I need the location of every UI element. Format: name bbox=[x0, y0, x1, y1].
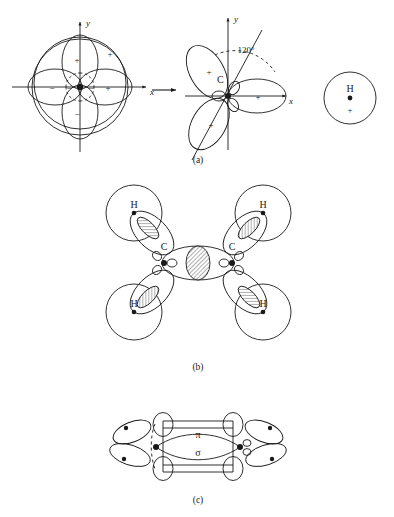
panel-a-hydrogen bbox=[324, 72, 376, 124]
lobe-dot-right-upper bbox=[268, 426, 272, 430]
s-orbital-sign: + bbox=[107, 49, 112, 59]
h-label-top-right: H bbox=[259, 199, 266, 210]
overlap-region-cc-sigma bbox=[186, 246, 210, 280]
small-lobe-right-upper bbox=[243, 440, 251, 447]
c-label-left: C bbox=[161, 241, 168, 252]
c-label-right: C bbox=[229, 241, 236, 252]
lobe-sign-left: − bbox=[49, 83, 54, 93]
sp2-nucleus-dot bbox=[225, 93, 231, 99]
h-label-top-left: H bbox=[130, 199, 137, 210]
lobe-sign-inner-left: − bbox=[66, 83, 71, 93]
sp2-x-axis-label: x bbox=[288, 96, 293, 106]
sp2-lobe-sign-lower-left: + bbox=[208, 120, 213, 130]
carbon-small-lobe-2 bbox=[151, 264, 164, 277]
sp2-y-axis-label: y bbox=[233, 14, 238, 24]
orbital-diagram-svg: x y + + + − − − − x y C 12 bbox=[0, 0, 394, 517]
hydrogen-sign: + bbox=[347, 105, 352, 115]
carbon-nucleus-left bbox=[161, 260, 167, 266]
carbon-small-lobe-6 bbox=[219, 259, 229, 267]
lobe-sign-top: + bbox=[74, 55, 79, 65]
carbon-small-lobe-4 bbox=[233, 264, 246, 277]
lobe-dot-right-lower bbox=[270, 457, 274, 461]
caption-b: (b) bbox=[192, 362, 203, 373]
lobe-sign-inner-right: − bbox=[88, 83, 93, 93]
caption-c: (c) bbox=[193, 495, 204, 506]
caption-a: (a) bbox=[193, 155, 204, 166]
nucleus-dot bbox=[77, 84, 83, 90]
y-axis-label: y bbox=[85, 18, 90, 28]
panel-a-sp2-orbitals bbox=[178, 18, 286, 160]
c-lobe-right-lower bbox=[243, 439, 289, 471]
angle-label-120: 120° bbox=[237, 45, 255, 55]
x-axis-label: x bbox=[149, 87, 154, 97]
panel-c-labels: π σ bbox=[195, 429, 201, 458]
carbon-atom-label: C bbox=[217, 74, 224, 85]
lobe-sign-bottom: − bbox=[74, 109, 79, 119]
panel-a-atomic-orbitals bbox=[12, 22, 146, 152]
lobe-dot-left-lower bbox=[122, 457, 126, 461]
carbon-nucleus-right-c bbox=[237, 444, 243, 450]
h-label-bottom-right: H bbox=[259, 298, 266, 309]
h-label-bottom-left: H bbox=[130, 298, 137, 309]
figure-root: x y + + + − − − − x y C 12 bbox=[0, 0, 394, 517]
carbon-nucleus-right bbox=[229, 260, 235, 266]
lobe-dot-left-upper bbox=[124, 426, 128, 430]
sp2-lobe-sign-right: + bbox=[255, 92, 260, 102]
sp2-lobe-sign-upper-left: + bbox=[206, 67, 211, 77]
small-lobe-right-lower bbox=[243, 449, 251, 456]
carbon-small-lobe-5 bbox=[167, 259, 177, 267]
carbon-nucleus-left-c bbox=[153, 444, 159, 450]
pi-bond-label: π bbox=[195, 429, 200, 440]
sigma-bond-label: σ bbox=[195, 447, 201, 458]
lobe-sign-right: + bbox=[105, 83, 110, 93]
hydrogen-nucleus-dot bbox=[348, 96, 353, 101]
c-lobe-left-lower bbox=[107, 439, 153, 471]
hydrogen-atom-label: H bbox=[346, 83, 353, 94]
